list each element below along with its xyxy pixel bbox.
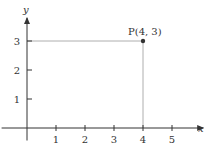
- x-tick-label: 2: [82, 134, 88, 145]
- y-tick-label: 1: [14, 94, 20, 105]
- point-label: P(4, 3): [128, 26, 162, 37]
- x-tick-label: 4: [140, 134, 146, 145]
- y-axis-label: y: [22, 4, 29, 15]
- y-tick-label: 2: [14, 65, 20, 76]
- y-tick-label: 3: [14, 36, 20, 47]
- point-P: [141, 39, 145, 43]
- x-tick-label: 3: [111, 134, 117, 145]
- x-tick-label: 5: [169, 134, 175, 145]
- coordinate-plot: 12345123 x y P(4, 3): [0, 0, 214, 150]
- x-axis-label: x: [198, 123, 204, 134]
- x-tick-label: 1: [53, 134, 59, 145]
